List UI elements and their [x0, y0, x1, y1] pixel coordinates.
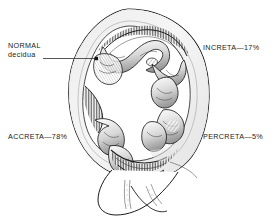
label-increta: INCRETA—17%: [203, 43, 259, 52]
label-normal-decidua-line1: NORMAL: [8, 41, 41, 50]
uterus-cross-section-illustration: [0, 0, 274, 219]
label-normal-decidua-line2: decidua: [8, 50, 41, 59]
label-accreta: ACCRETA—78%: [8, 132, 67, 141]
figure-root: NORMAL decidua INCRETA—17% ACCRETA—78% P…: [0, 0, 274, 219]
label-percreta: PERCRETA—5%: [203, 132, 263, 141]
label-normal-decidua: NORMAL decidua: [8, 41, 41, 60]
